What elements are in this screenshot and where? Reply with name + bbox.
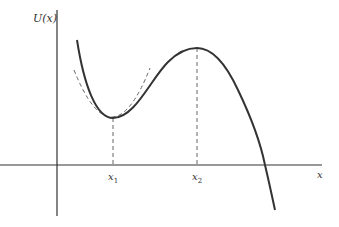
y-axis-label: U(x) [33, 12, 57, 25]
potential-energy-diagram: U(x) x1 x2 x [0, 0, 339, 227]
potential-curve [77, 40, 275, 210]
x1-label: x1 [108, 171, 118, 185]
harmonic-approximation-dashed [74, 68, 150, 117]
x2-label: x2 [192, 171, 202, 185]
x-axis-label: x [317, 169, 323, 180]
